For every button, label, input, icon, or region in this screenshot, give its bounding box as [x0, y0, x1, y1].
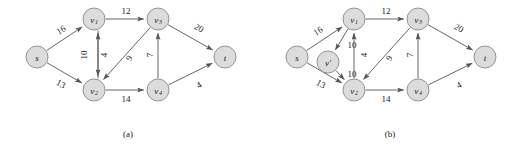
node-label-v3: v	[154, 15, 158, 25]
edge-capacity-label: 10	[348, 40, 358, 50]
node-s[interactable]: s	[286, 46, 308, 68]
node-subscript-v1: 1	[355, 19, 358, 25]
nodes-layer: sv1v2v3v4tsv'v1v2v3v4t	[26, 8, 496, 101]
edge-capacity-s-v1: 16	[55, 23, 68, 37]
node-v4[interactable]: v4	[147, 79, 169, 101]
edge-capacity-v1-v2: 10	[79, 50, 89, 60]
node-subscript-v1: 1	[95, 19, 98, 25]
edge-capacity-label: 10	[79, 50, 89, 60]
edge-capacity-label: 20	[453, 21, 466, 35]
node-v4[interactable]: v4	[407, 79, 429, 101]
edge-capacity-label: 9	[384, 53, 395, 62]
edge-capacity-v4-t: 4	[455, 79, 464, 90]
edge-capacity-label: 4	[195, 79, 204, 90]
node-subscript-v2: 2	[95, 90, 98, 96]
edge-capacity-v4-t: 4	[195, 79, 204, 90]
edge-capacity-label: 7	[405, 52, 415, 57]
edge-capacity-label: 13	[315, 77, 328, 90]
edge-capacity-label: 16	[312, 24, 325, 38]
figure-canvas: sv1v2v3v4tsv'v1v2v3v4t 16131210491472041…	[0, 0, 520, 148]
edge-v3-to-v2	[364, 28, 411, 80]
edge-capacity-label: 14	[122, 94, 132, 104]
edge-capacity-label: 4	[99, 52, 109, 57]
edge-capacity-s-v1: 16	[312, 24, 325, 38]
edge-v3-to-v2	[104, 28, 151, 80]
node-v2[interactable]: v2	[83, 79, 105, 101]
edge-capacity-v2-v4: 14	[382, 94, 392, 104]
panel-caption-b: (b)	[385, 129, 396, 139]
edge-capacity-label: 4	[359, 52, 369, 57]
edge-capacity-label: 13	[55, 77, 68, 90]
node-label-v2: v	[350, 86, 354, 96]
node-label-s: s	[35, 53, 39, 63]
node-s[interactable]: s	[26, 46, 48, 68]
edge-v4-to-t	[168, 63, 212, 85]
edge-capacity-label: 9	[124, 53, 135, 62]
edge-capacity-s-v2: 13	[315, 77, 328, 90]
edge-capacity-v4-v3: 7	[405, 52, 415, 57]
edge-capacity-label: 20	[193, 21, 206, 35]
panel-caption-a: (a)	[123, 129, 133, 139]
node-v3[interactable]: v3	[407, 8, 429, 30]
node-v1[interactable]: v1	[343, 8, 365, 30]
node-t[interactable]: t	[474, 46, 496, 68]
node-v2[interactable]: v2	[343, 79, 365, 101]
edge-capacity-label: 10	[348, 69, 358, 79]
node-subscript-v3: 3	[418, 19, 422, 25]
edge-labels-layer: 1613121049147204161310101249147204	[55, 6, 466, 104]
node-label-v4: v	[154, 86, 158, 96]
edge-vp-to-v2	[336, 71, 344, 80]
edge-capacity-v3-t: 20	[453, 21, 466, 35]
node-label-v3: v	[414, 15, 418, 25]
edge-capacity-v2-v1: 4	[99, 52, 109, 57]
edge-capacity-v1-v3: 12	[122, 6, 131, 16]
captions-layer: (a)(b)	[123, 129, 395, 139]
node-v3[interactable]: v3	[147, 8, 169, 30]
edge-capacity-v4-v3: 7	[145, 52, 155, 57]
node-subscript-v3: 3	[158, 19, 162, 25]
edge-v4-to-t	[428, 63, 472, 85]
edge-v3-to-t	[428, 25, 473, 50]
edge-capacity-v3-t: 20	[193, 21, 206, 35]
edge-capacity-v2-v4: 14	[122, 94, 132, 104]
node-label-v4: v	[414, 86, 418, 96]
node-label-v2: v	[90, 86, 94, 96]
node-subscript-v2: 2	[355, 90, 358, 96]
edge-capacity-label: 14	[382, 94, 392, 104]
node-subscript-v4: 4	[419, 90, 422, 96]
flow-network-figure: sv1v2v3v4tsv'v1v2v3v4t 16131210491472041…	[0, 0, 520, 148]
edge-capacity-v3-v2: 9	[384, 53, 395, 62]
node-label-v1: v	[350, 15, 354, 25]
edge-capacity-label: 12	[382, 6, 391, 16]
node-v1[interactable]: v1	[83, 8, 105, 30]
node-t[interactable]: t	[214, 46, 236, 68]
edge-capacity-s-v2: 13	[55, 77, 68, 90]
edge-v3-to-t	[168, 25, 213, 50]
edge-capacity-v3-v2: 9	[124, 53, 135, 62]
node-label-s: s	[295, 53, 299, 63]
node-label-v1: v	[90, 15, 94, 25]
edge-capacity-v1-vp: 10	[348, 40, 358, 50]
node-vp[interactable]: v'	[317, 51, 339, 73]
node-subscript-v4: 4	[159, 90, 162, 96]
edge-capacity-label: 16	[55, 23, 68, 37]
edge-v1-to-vp	[335, 29, 348, 50]
edge-capacity-label: 7	[145, 52, 155, 57]
edge-capacity-v1-v3: 12	[382, 6, 391, 16]
edge-capacity-label: 4	[455, 79, 464, 90]
edge-capacity-label: 12	[122, 6, 131, 16]
edge-capacity-v2-v1: 4	[359, 52, 369, 57]
edge-capacity-vp-v2: 10	[348, 69, 358, 79]
